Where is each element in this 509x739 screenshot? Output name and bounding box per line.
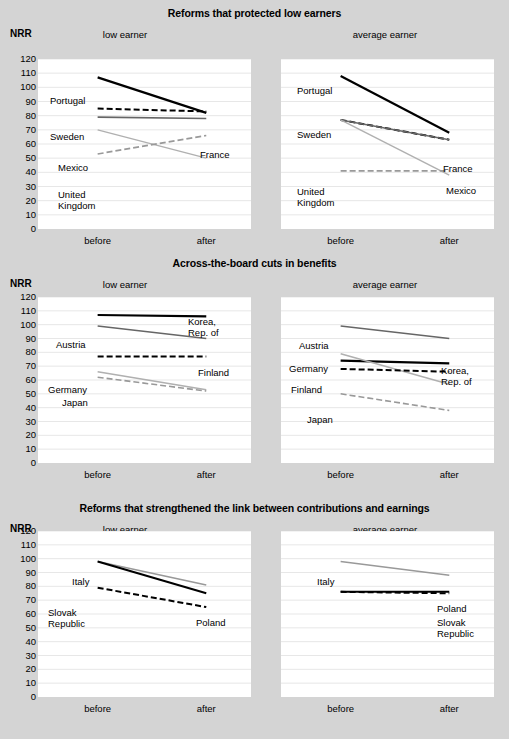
y-tick-label: 80 [6,111,36,120]
y-tick-label: 100 [6,554,36,563]
y-tick-label: 10 [6,210,36,219]
plot-area-left: PortugalSwedenFranceMexicoUnitedKingdom [38,59,251,229]
series-label-finland: Finland [291,384,322,395]
series-label-poland: Poland [196,617,226,628]
plot-area-right: PortugalSwedenFranceMexicoUnitedKingdom [281,59,494,229]
y-tick-label: 0 [6,224,36,233]
y-axis: 1201101009080706050403020100 [6,531,36,697]
y-tick-label: 110 [6,540,36,549]
y-tick-label: 60 [6,139,36,148]
series-label-line: Slovak [48,607,85,618]
series-line [98,77,207,112]
y-tick-label: 40 [6,403,36,412]
series-label-line: United [297,186,335,197]
series-label-france: France [200,149,230,160]
y-tick-label: 120 [6,292,36,301]
y-tick-label: 100 [6,82,36,91]
panel-title: Reforms that strengthened the link betwe… [0,502,509,514]
y-axis-title: NRR [10,28,32,39]
panel-title: Across-the-board cuts in benefits [0,257,509,269]
series-line [341,361,450,364]
subtitle-low-earner: low earner [65,279,185,290]
series-line [341,76,450,133]
series-label-line: Korea, [188,316,219,327]
series-label-slovak-republic: SlovakRepublic [48,607,85,629]
x-tick-after: after [414,469,484,480]
y-tick-label: 80 [6,581,36,590]
y-axis-title: NRR [10,278,32,289]
x-tick-before: before [306,703,376,714]
series-label-france: France [443,163,473,174]
x-tick-after: after [171,703,241,714]
y-tick-label: 50 [6,623,36,632]
series-label-austria: Austria [56,339,86,350]
series-label-mexico: Mexico [58,162,88,173]
y-tick-label: 30 [6,182,36,191]
x-tick-before: before [63,469,133,480]
y-tick-label: 100 [6,320,36,329]
series-label-portugal: Portugal [297,85,332,96]
y-tick-label: 50 [6,153,36,162]
y-tick-label: 20 [6,664,36,673]
x-tick-after: after [414,703,484,714]
plot-area-left: ItalyPolandSlovakRepublic [38,531,251,697]
y-tick-label: 0 [6,692,36,701]
x-tick-before: before [63,235,133,246]
series-label-austria: Austria [299,340,329,351]
series-label-japan: Japan [307,414,333,425]
series-line [98,109,207,112]
y-tick-label: 50 [6,389,36,398]
plot-area-right: AustriaKorea,Rep. ofGermanyFinlandJapan [281,297,494,463]
y-tick-label: 110 [6,306,36,315]
series-label-line: Rep. of [441,376,472,387]
series-label-line: Kingdom [58,200,96,211]
y-tick-label: 90 [6,568,36,577]
series-label-line: Kingdom [297,197,335,208]
series-label-line: United [58,189,96,200]
plot-area-left: Korea,Rep. ofAustriaFinlandGermanyJapan [38,297,251,463]
y-tick-label: 0 [6,458,36,467]
series-label-portugal: Portugal [50,95,85,106]
series-label-poland: Poland [437,603,467,614]
plot-area-right: ItalyPolandSlovakRepublic [281,531,494,697]
plot-svg [38,297,251,463]
x-tick-after: after [171,469,241,480]
subtitle-average-earner: average earner [325,29,445,40]
x-tick-before: before [306,469,376,480]
series-line [341,326,450,338]
series-label-united-kingdom: UnitedKingdom [297,186,335,208]
y-tick-label: 70 [6,125,36,134]
series-line [98,136,207,154]
series-label-line: Republic [48,618,85,629]
y-tick-label: 120 [6,526,36,535]
y-axis: 1201101009080706050403020100 [6,59,36,229]
series-line [341,561,450,575]
y-tick-label: 60 [6,609,36,618]
y-tick-label: 60 [6,375,36,384]
series-line [341,354,450,384]
y-tick-label: 10 [6,444,36,453]
x-tick-before: before [63,703,133,714]
y-tick-label: 70 [6,595,36,604]
series-line [98,561,207,585]
chart-panel-1: Across-the-board cuts in benefitsNRRlow … [0,250,509,495]
series-line [341,120,450,175]
panel-title: Reforms that protected low earners [0,7,509,19]
series-line [98,372,207,390]
subtitle-average-earner: average earner [325,279,445,290]
subtitle-low-earner: low earner [65,29,185,40]
series-label-mexico: Mexico [446,185,476,196]
series-label-united-kingdom: UnitedKingdom [58,189,96,211]
series-label-sweden: Sweden [297,129,331,140]
series-line [98,588,207,607]
x-tick-after: after [414,235,484,246]
series-label-korea-rep-of: Korea,Rep. of [188,316,219,338]
series-label-line: Rep. of [188,327,219,338]
series-label-line: Slovak [437,617,474,628]
y-axis: 1201101009080706050403020100 [6,297,36,463]
y-tick-label: 20 [6,430,36,439]
series-line [98,377,207,391]
chart-panel-0: Reforms that protected low earnersNRRlow… [0,0,509,250]
series-label-sweden: Sweden [50,131,84,142]
y-tick-label: 120 [6,54,36,63]
